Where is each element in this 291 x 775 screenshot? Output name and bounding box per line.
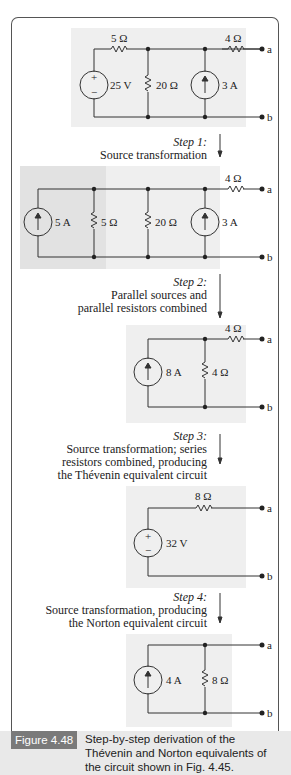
step-text: the Norton equivalent circuit	[45, 617, 207, 630]
terminal-a: a	[267, 333, 272, 345]
step-text: parallel resistors combined	[78, 302, 207, 315]
terminal-a: a	[267, 639, 272, 651]
step-2-label: Step 2: Parallel sources and parallel re…	[78, 276, 207, 315]
label-r-shunt: 20 Ω	[156, 79, 178, 91]
terminal-b: b	[267, 401, 273, 413]
terminal-b: b	[267, 707, 273, 719]
step1-arrow-icon	[218, 134, 222, 157]
step4-arrow-icon	[218, 593, 222, 623]
terminal-b: b	[267, 111, 273, 123]
label-r1: 5 Ω	[101, 216, 117, 228]
label-r-out: 4 Ω	[225, 172, 241, 184]
minus-sign: −	[145, 544, 151, 556]
circuit-thevenin: + − 32 V 8 Ω a b	[126, 486, 273, 588]
circuit-original: 5 Ω 4 Ω + − 25 V 20 Ω 3 A a b	[71, 28, 273, 127]
step-3-label: Step 3: Source transformation; series re…	[58, 430, 207, 482]
terminal-b: b	[267, 570, 273, 582]
step-4-label: Step 4: Source transformation, producing…	[45, 591, 207, 630]
terminal-b: b	[267, 251, 273, 263]
figure-caption: Step-by-step derivation of the Thévenin …	[85, 732, 285, 774]
plus-sign: +	[145, 530, 151, 542]
label-r-series: 5 Ω	[111, 32, 127, 44]
label-r-series: 8 Ω	[195, 490, 211, 502]
label-i2: 3 A	[222, 216, 238, 228]
step3-arrow-icon	[218, 434, 222, 464]
label-r-shunt: 8 Ω	[212, 674, 228, 686]
label-r2: 20 Ω	[155, 216, 177, 228]
label-i-source: 8 A	[166, 366, 182, 378]
label-i-source: 4 A	[166, 674, 182, 686]
circuit-step1: 5 A 5 Ω 20 Ω 3 A 4 Ω a b	[20, 166, 273, 269]
label-r-out: 4 Ω	[225, 322, 241, 334]
terminal-a: a	[267, 43, 272, 55]
plus-sign: +	[91, 71, 97, 83]
label-r-shunt: 4 Ω	[212, 366, 228, 378]
label-r-out: 4 Ω	[225, 32, 241, 44]
terminal-a: a	[267, 183, 272, 195]
step-text: Source transformation	[100, 148, 207, 162]
label-v-source: 32 V	[166, 537, 188, 549]
label-i1: 5 A	[55, 216, 71, 228]
step2-arrow-icon	[218, 274, 222, 318]
step-1-label: Step 1: Source transformation	[100, 136, 207, 162]
label-i-source: 3 A	[222, 79, 238, 91]
figure-label: Figure 4.48	[11, 731, 77, 749]
terminal-a: a	[267, 502, 272, 514]
minus-sign: −	[91, 86, 97, 98]
circuit-step2: 8 A 4 Ω 4 Ω a b	[126, 322, 273, 423]
circuit-norton: 4 A 8 Ω a b	[126, 634, 273, 727]
label-v-source: 25 V	[110, 79, 132, 91]
step-text: the Thévenin equivalent circuit	[58, 469, 207, 482]
